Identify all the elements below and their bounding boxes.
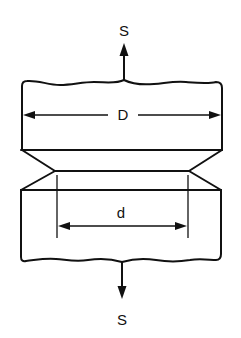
outer-diameter-label: D xyxy=(118,106,129,123)
top-force-label: S xyxy=(119,22,129,39)
bottom-force-label: S xyxy=(117,311,127,328)
bottom-force-arrow xyxy=(118,262,127,299)
v-notch xyxy=(21,150,222,190)
notched-bar-diagram: S D d S xyxy=(0,0,241,338)
notch-diameter-label: d xyxy=(117,204,125,221)
top-force-arrow xyxy=(120,43,129,80)
